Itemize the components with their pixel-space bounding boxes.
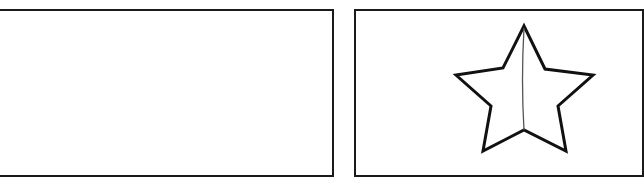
- right-panel-frame: [354, 9, 644, 177]
- left-panel-empty-frame: [0, 9, 334, 177]
